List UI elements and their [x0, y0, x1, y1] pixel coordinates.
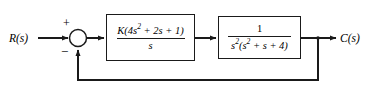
controller-num-mid: + 2 — [141, 24, 159, 35]
controller-num-k-open: K(4 — [117, 24, 133, 35]
plant-numerator: 1 — [226, 23, 294, 36]
summing-junction-minus-sign: − — [61, 45, 68, 58]
plant-denominator: s2(s2 + s + 4) — [228, 36, 291, 52]
output-signal-label: C(s) — [340, 32, 360, 44]
plant-block[interactable]: 1 s2(s2 + s + 4) — [218, 16, 301, 59]
block-diagram: R(s) C(s) + − K(4s2 + 2s + 1) s 1 s2(s2 … — [0, 0, 372, 101]
controller-block[interactable]: K(4s2 + 2s + 1) s — [106, 14, 195, 61]
controller-numerator: K(4s2 + 2s + 1) — [114, 23, 186, 38]
controller-transfer-function: K(4s2 + 2s + 1) s — [114, 23, 186, 52]
plant-transfer-function: 1 s2(s2 + s + 4) — [226, 23, 294, 52]
plant-den-tail: + s + 4) — [250, 40, 288, 51]
controller-denominator: s — [117, 38, 185, 52]
controller-num-tail: + 1) — [163, 24, 184, 35]
input-signal-label: R(s) — [9, 32, 28, 44]
summing-junction-plus-sign: + — [63, 17, 70, 29]
summing-junction-circle — [70, 30, 87, 47]
